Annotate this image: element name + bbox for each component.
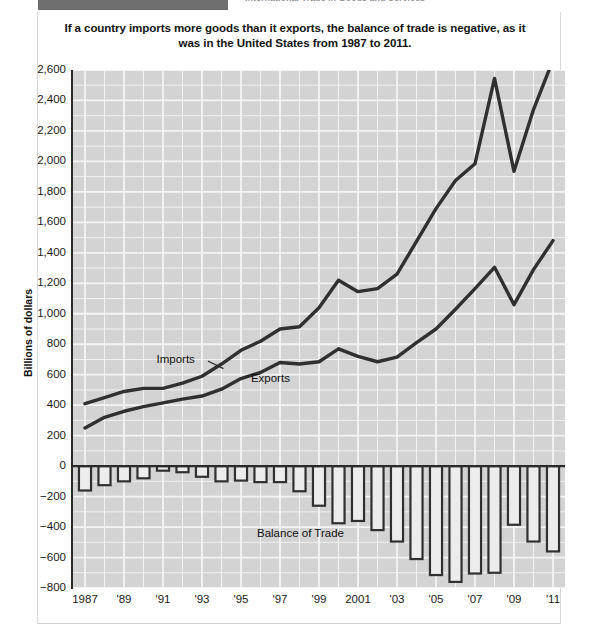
series-line-imports (85, 70, 553, 404)
y-tick-label: 1,200 (20, 276, 66, 288)
y-axis-title: Billions of dollars (22, 289, 34, 377)
y-tick-label: 200 (20, 429, 66, 441)
y-tick-label: 2,600 (20, 63, 66, 75)
y-tick-label: 2,200 (20, 124, 66, 136)
plot-area (73, 70, 565, 588)
y-tick-label: 800 (20, 337, 66, 349)
series-line-exports (85, 241, 553, 428)
y-tick-label: 1,800 (20, 185, 66, 197)
x-tick-label: '11 (529, 593, 577, 605)
balance-bar (215, 466, 227, 481)
balance-bar (118, 466, 130, 481)
y-tick-label: 2,000 (20, 154, 66, 166)
balance-bar (332, 466, 344, 523)
series-label-exports: Exports (251, 372, 290, 384)
balance-bar (352, 466, 364, 521)
balance-bar (293, 466, 305, 491)
balance-bar (235, 466, 247, 480)
balance-bar (274, 466, 286, 482)
balance-bar (371, 466, 383, 530)
y-tick-label: 2,400 (20, 93, 66, 105)
balance-bar (410, 466, 422, 559)
balance-bar (98, 466, 110, 485)
trade-chart: Billions of dollars 2,6002,4002,2002,000… (0, 0, 592, 635)
y-tick-label: −600 (20, 551, 66, 563)
y-tick-label: 1,400 (20, 246, 66, 258)
balance-bar (547, 466, 559, 551)
balance-bar (449, 466, 461, 582)
series-label-balance-of-trade: Balance of Trade (257, 527, 344, 539)
balance-bar (488, 466, 500, 573)
y-tick-label: 0 (20, 459, 66, 471)
balance-bar (391, 466, 403, 541)
y-tick-label: 1,000 (20, 307, 66, 319)
series-label-imports: Imports (157, 353, 195, 365)
y-tick-label: 600 (20, 368, 66, 380)
balance-bar (469, 466, 481, 573)
balance-bar (313, 466, 325, 506)
y-tick-label: −200 (20, 490, 66, 502)
balance-bar (196, 466, 208, 477)
balance-bar (137, 466, 149, 478)
y-tick-label: −400 (20, 520, 66, 532)
y-tick-label: 400 (20, 398, 66, 410)
y-tick-label: −800 (20, 581, 66, 593)
series-layer (73, 70, 565, 588)
balance-bar (79, 466, 91, 490)
balance-bar (254, 466, 266, 482)
y-tick-label: 1,600 (20, 215, 66, 227)
balance-bar (508, 466, 520, 525)
balance-bar (430, 466, 442, 575)
balance-bar (527, 466, 539, 541)
